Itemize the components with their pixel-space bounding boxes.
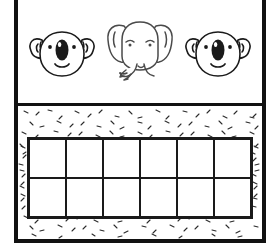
animal-row [18, 0, 262, 103]
koala-icon [26, 18, 98, 88]
ten-frame-cell[interactable] [67, 140, 102, 177]
ten-frame-cell[interactable] [30, 140, 65, 177]
ten-frame-cell[interactable] [104, 179, 139, 216]
frame-bottom-border [14, 239, 266, 243]
ten-frame-cell[interactable] [141, 140, 176, 177]
ten-frame-cell[interactable] [104, 140, 139, 177]
ten-frame-cell[interactable] [178, 179, 213, 216]
ten-frame-cell[interactable] [30, 179, 65, 216]
elephant-icon [104, 12, 176, 90]
ten-frame-panel [18, 106, 262, 239]
worksheet-page [0, 0, 278, 250]
koala-icon [182, 18, 254, 88]
ten-frame-cell[interactable] [67, 179, 102, 216]
ten-frame-grid[interactable] [27, 137, 253, 219]
ten-frame-cell[interactable] [215, 140, 250, 177]
frame-right-border [262, 0, 266, 243]
ten-frame-cell[interactable] [141, 179, 176, 216]
ten-frame-cell[interactable] [178, 140, 213, 177]
ten-frame-cell[interactable] [215, 179, 250, 216]
